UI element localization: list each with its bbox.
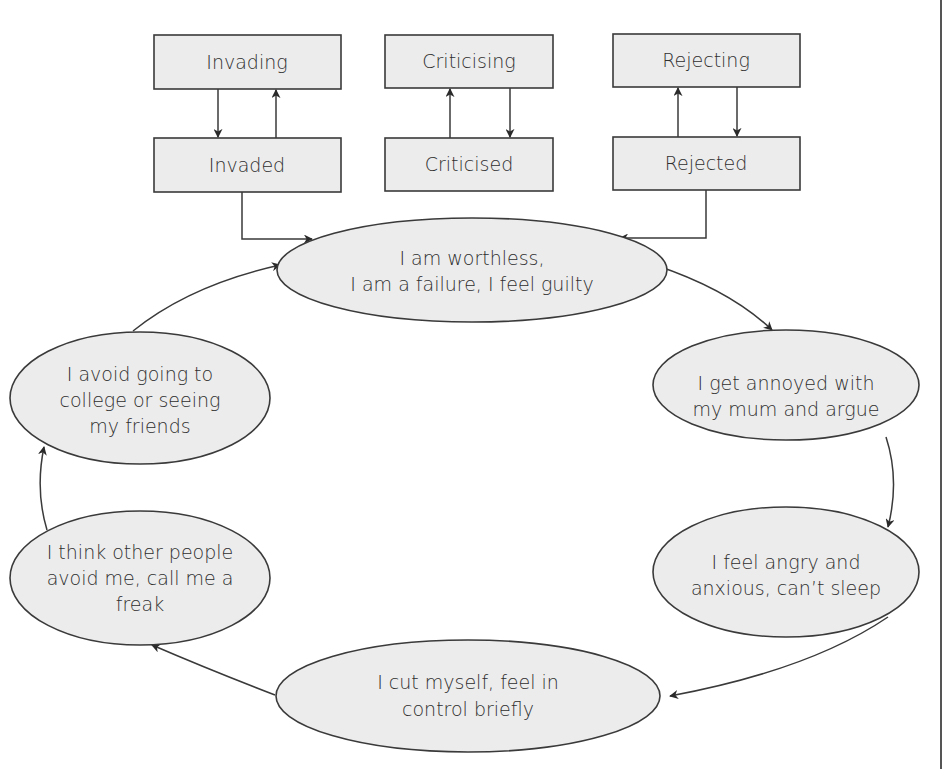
pair-rejecting: Rejecting Rejected bbox=[613, 34, 800, 190]
pair-criticising: Criticising Criticised bbox=[385, 35, 553, 191]
node-worthless: I am worthless, I am a failure, I feel g… bbox=[277, 218, 667, 322]
angry-line-2: anxious, can’t sleep bbox=[691, 577, 881, 599]
arrow-worthless-to-annoyed bbox=[655, 265, 772, 330]
worthless-line-1: I am worthless, bbox=[399, 247, 544, 269]
node-cut: I cut myself, feel in control briefly bbox=[276, 640, 660, 752]
avoid-line-2: college or seeing bbox=[60, 389, 221, 411]
label-criticised: Criticised bbox=[425, 153, 513, 175]
arrow-cut-to-thinkothers bbox=[152, 645, 275, 695]
label-criticising: Criticising bbox=[422, 50, 515, 72]
connector-invaded-to-worthless bbox=[242, 192, 312, 239]
ellipse-cut bbox=[276, 640, 660, 752]
think-others-line-2: avoid me, call me a bbox=[47, 567, 234, 589]
cut-line-1: I cut myself, feel in bbox=[377, 671, 559, 693]
avoid-line-1: I avoid going to bbox=[67, 363, 213, 385]
ellipse-worthless bbox=[277, 218, 667, 322]
node-think-others: I think other people avoid me, call me a… bbox=[10, 511, 270, 645]
arrow-thinkothers-to-avoid bbox=[40, 447, 47, 530]
node-avoid: I avoid going to college or seeing my fr… bbox=[10, 332, 270, 464]
annoyed-line-2: my mum and argue bbox=[693, 398, 880, 420]
label-invaded: Invaded bbox=[209, 154, 285, 176]
cut-line-2: control briefly bbox=[402, 698, 534, 720]
arrow-annoyed-to-angry bbox=[886, 437, 894, 527]
angry-line-1: I feel angry and bbox=[712, 551, 861, 573]
label-rejected: Rejected bbox=[665, 152, 748, 174]
label-rejecting: Rejecting bbox=[662, 49, 750, 71]
annoyed-line-1: I get annoyed with bbox=[698, 372, 875, 394]
pair-invading: Invading Invaded bbox=[154, 35, 341, 192]
cycle-diagram: Invading Invaded Criticising Criticised … bbox=[0, 0, 950, 769]
think-others-line-1: I think other people bbox=[47, 541, 234, 563]
node-angry: I feel angry and anxious, can’t sleep bbox=[653, 507, 919, 637]
avoid-line-3: my friends bbox=[89, 415, 190, 437]
think-others-line-3: freak bbox=[116, 593, 164, 615]
label-invading: Invading bbox=[206, 51, 287, 73]
arrow-avoid-to-worthless bbox=[133, 265, 280, 331]
connector-rejected-to-worthless bbox=[620, 190, 706, 238]
node-annoyed: I get annoyed with my mum and argue bbox=[653, 330, 919, 440]
worthless-line-2: I am a failure, I feel guilty bbox=[350, 273, 593, 295]
